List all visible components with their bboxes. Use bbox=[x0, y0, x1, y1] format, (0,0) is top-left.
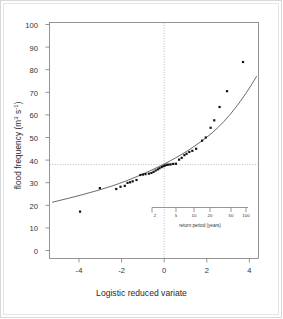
page-canvas: flood frequency (m3 s-1) Logistic reduce… bbox=[0, 0, 283, 319]
data-point bbox=[201, 140, 203, 142]
data-point bbox=[158, 167, 160, 169]
data-point bbox=[126, 182, 128, 184]
data-point bbox=[155, 169, 157, 171]
data-point bbox=[178, 159, 180, 161]
data-point bbox=[142, 173, 144, 175]
data-point bbox=[185, 153, 187, 155]
fitted-curve bbox=[53, 77, 257, 203]
data-point bbox=[135, 179, 137, 181]
data-point bbox=[119, 186, 121, 188]
data-point bbox=[242, 61, 244, 63]
data-point bbox=[152, 171, 154, 173]
data-point bbox=[226, 90, 228, 92]
data-point bbox=[99, 187, 101, 189]
data-point bbox=[183, 154, 185, 156]
data-point bbox=[79, 211, 81, 213]
data-point bbox=[188, 151, 190, 153]
data-point bbox=[169, 163, 171, 165]
data-point bbox=[172, 163, 174, 165]
inset-return-period-axis bbox=[152, 208, 248, 213]
data-point bbox=[218, 106, 220, 108]
data-point bbox=[148, 173, 150, 175]
data-point bbox=[191, 150, 193, 152]
flood-frequency-figure: flood frequency (m3 s-1) Logistic reduce… bbox=[0, 0, 283, 319]
data-point bbox=[129, 181, 131, 183]
data-point bbox=[210, 127, 212, 129]
data-point-group bbox=[79, 61, 244, 213]
data-point bbox=[181, 157, 183, 159]
data-point bbox=[124, 185, 126, 187]
data-point bbox=[115, 188, 117, 190]
data-point bbox=[150, 172, 152, 174]
y-axis-ticks bbox=[46, 25, 50, 251]
data-point bbox=[213, 119, 215, 121]
data-point bbox=[144, 173, 146, 175]
data-point bbox=[132, 180, 134, 182]
data-point bbox=[195, 148, 197, 150]
data-point bbox=[139, 174, 141, 176]
plot-frame bbox=[50, 23, 259, 259]
data-point bbox=[205, 136, 207, 138]
x-axis-ticks bbox=[79, 259, 249, 263]
plot-area bbox=[0, 0, 283, 319]
data-point bbox=[175, 163, 177, 165]
data-point bbox=[167, 164, 169, 166]
